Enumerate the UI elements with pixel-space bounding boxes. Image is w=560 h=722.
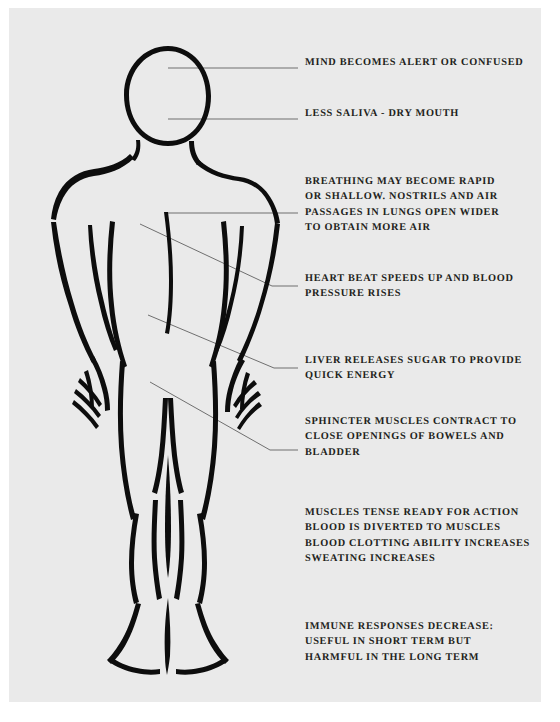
label-line: CLOSE OPENINGS OF BOWELS AND: [305, 429, 517, 444]
inner-thigh-right: [168, 398, 184, 494]
label-line: BLOOD CLOTTING ABILITY INCREASES: [305, 536, 530, 551]
inner-thigh-left: [152, 398, 168, 494]
label-line: SPHINCTER MUSCLES CONTRACT TO: [305, 414, 517, 429]
label-line: IMMUNE RESPONSES DECREASE:: [305, 619, 494, 634]
foot-right-sole: [176, 657, 228, 675]
calf-right-outer: [197, 513, 207, 604]
thigh-right-outer: [200, 361, 218, 520]
thigh-left-outer: [118, 361, 136, 520]
leg-gap-center-stroke: [165, 455, 171, 578]
label-line: HEART BEAT SPEEDS UP AND BLOOD: [305, 271, 514, 286]
label-line: SWEATING INCREASES: [305, 551, 530, 566]
shoulder-right-stroke: [196, 160, 280, 224]
label-line: HARMFUL IN THE LONG TERM: [305, 650, 494, 665]
stress-response-poster: .ink { fill: #0d0d0d; stroke: none; } .l…: [0, 0, 560, 722]
label-line: PRESSURE RISES: [305, 286, 514, 301]
label-muscles: MUSCLES TENSE READY FOR ACTIONBLOOD IS D…: [305, 505, 530, 567]
label-liver: LIVER RELEASES SUGAR TO PROVIDEQUICK ENE…: [305, 353, 522, 384]
label-sphincter: SPHINCTER MUSCLES CONTRACT TOCLOSE OPENI…: [305, 414, 517, 460]
torso-right-contour: [209, 221, 229, 368]
label-line: BREATHING MAY BECOME RAPID: [305, 174, 499, 189]
hand-left-finger-3: [72, 400, 99, 429]
label-saliva: LESS SALIVA - DRY MOUTH: [305, 106, 459, 121]
label-line: BLOOD IS DIVERTED TO MUSCLES: [305, 520, 530, 535]
torso-left-contour: [107, 221, 127, 368]
shin-left-inner: [152, 500, 162, 600]
arm-right-outer-stroke: [237, 223, 280, 363]
head-outline: [124, 46, 211, 146]
label-line: LESS SALIVA - DRY MOUTH: [305, 106, 459, 121]
torso-center-upper-stroke: [164, 212, 173, 334]
foot-left-sole: [108, 657, 160, 675]
label-line: MIND BECOMES ALERT OR CONFUSED: [305, 55, 523, 70]
calf-left-outer: [129, 513, 139, 604]
label-line: QUICK ENERGY: [305, 368, 522, 383]
label-line: MUSCLES TENSE READY FOR ACTION: [305, 505, 530, 520]
shoulder-left-stroke: [51, 154, 134, 220]
label-line: BLADDER: [305, 445, 517, 460]
label-breathing: BREATHING MAY BECOME RAPIDOR SHALLOW. NO…: [305, 174, 499, 236]
label-line: PASSAGES IN LUNGS OPEN WIDER: [305, 205, 499, 220]
label-line: USEFUL IN SHORT TERM BUT: [305, 634, 494, 649]
label-heart: HEART BEAT SPEEDS UP AND BLOODPRESSURE R…: [305, 271, 514, 302]
foot-right-outer: [195, 603, 229, 664]
label-immune: IMMUNE RESPONSES DECREASE:USEFUL IN SHOR…: [305, 619, 494, 665]
ankle-center-stroke: [165, 598, 171, 675]
foot-left-outer: [107, 603, 141, 664]
label-line: OR SHALLOW. NOSTRILS AND AIR: [305, 189, 499, 204]
label-line: LIVER RELEASES SUGAR TO PROVIDE: [305, 353, 522, 368]
label-mind: MIND BECOMES ALERT OR CONFUSED: [305, 55, 523, 70]
body-outline-strokes: [51, 46, 280, 675]
shin-right-inner: [174, 500, 184, 600]
label-line: TO OBTAIN MORE AIR: [305, 220, 499, 235]
